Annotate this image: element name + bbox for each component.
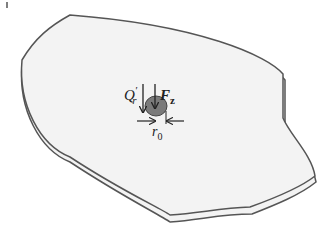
plate-diagram: Q′r Fz r0 (0, 0, 334, 235)
plate-top-surface (22, 15, 315, 215)
shear-force-label: Q′r (124, 84, 138, 106)
